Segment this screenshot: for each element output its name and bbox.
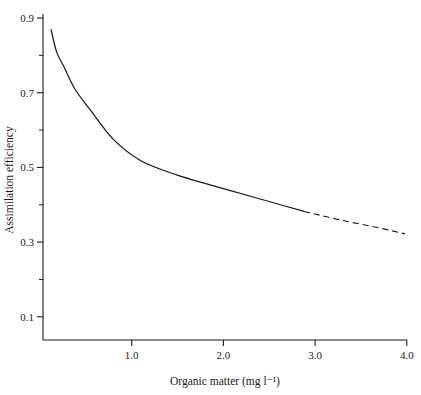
x-axis-title: Organic matter (mg l⁻¹) [170, 375, 280, 388]
y-tick-label: 0.5 [20, 161, 34, 173]
chart-figure: 0.10.30.50.70.9 1.02.03.04.0 Organic mat… [0, 0, 421, 395]
y-axis-ticks: 0.10.30.50.70.9 [20, 12, 43, 323]
y-tick-label: 0.3 [20, 236, 34, 248]
x-tick-label: 3.0 [308, 349, 322, 361]
y-tick-label: 0.7 [20, 87, 34, 99]
fitted-curve-solid [51, 29, 304, 211]
x-axis-ticks: 1.02.03.04.0 [125, 340, 414, 361]
x-tick-label: 1.0 [125, 349, 139, 361]
y-tick-label: 0.1 [20, 311, 34, 323]
x-tick-label: 4.0 [400, 349, 414, 361]
plot-curve [51, 29, 405, 234]
x-tick-label: 2.0 [217, 349, 231, 361]
chart-svg: 0.10.30.50.70.9 1.02.03.04.0 Organic mat… [0, 0, 421, 395]
y-axis-title: Assimilation efficiency [3, 126, 16, 234]
y-tick-label: 0.9 [20, 12, 34, 24]
plot-axes [43, 14, 407, 340]
fitted-curve-dashed-extrapolation [304, 211, 405, 233]
